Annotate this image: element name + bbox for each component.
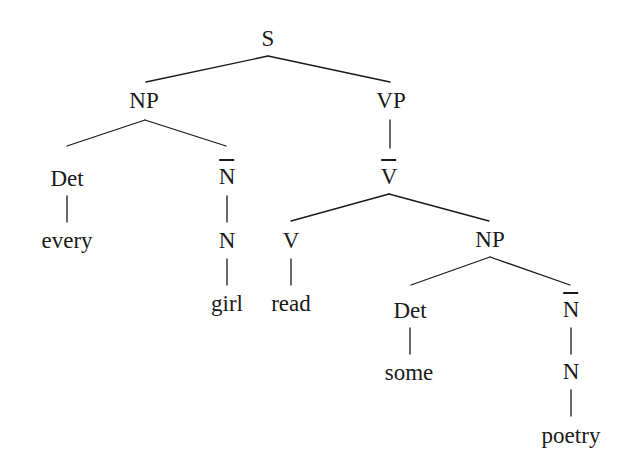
tree-node-v: V [283, 229, 300, 252]
tree-node-n1: N [219, 229, 236, 252]
tree-node-label: girl [211, 291, 243, 316]
tree-node-poetry: poetry [542, 424, 601, 447]
tree-edge [145, 120, 226, 146]
tree-node-np2: NP [475, 228, 504, 251]
tree-node-vp: VP [376, 89, 405, 112]
tree-edge-layer [0, 0, 626, 472]
tree-node-nbar1: N [219, 164, 236, 188]
tree-node-label: N [219, 228, 236, 253]
tree-edge [389, 194, 489, 221]
tree-node-label: some [385, 360, 434, 385]
tree-node-label: N [219, 164, 236, 189]
tree-node-some: some [385, 361, 434, 384]
tree-node-nbar2: N [563, 297, 580, 321]
tree-edge [146, 56, 268, 82]
tree-node-label: V [381, 164, 398, 189]
overbar-icon [564, 292, 579, 294]
tree-node-label: N [563, 297, 580, 322]
tree-node-n2: N [563, 360, 580, 383]
tree-node-label: read [271, 291, 311, 316]
tree-node-label: every [41, 228, 92, 253]
tree-node-girl: girl [211, 292, 243, 315]
tree-node-label: S [262, 26, 275, 51]
tree-node-label: NP [475, 227, 504, 252]
tree-edge [411, 257, 490, 285]
tree-node-read: read [271, 292, 311, 315]
tree-node-every: every [41, 229, 92, 252]
overbar-icon [382, 159, 397, 161]
tree-edge [291, 194, 389, 221]
bar-level-label: N [563, 297, 580, 321]
tree-node-det2: Det [393, 299, 426, 322]
tree-node-s: S [262, 27, 275, 50]
overbar-icon [220, 159, 235, 161]
tree-node-det1: Det [50, 167, 83, 190]
tree-edge [67, 120, 145, 146]
tree-node-vbar: V [381, 164, 398, 188]
tree-node-label: V [283, 228, 300, 253]
tree-edge [490, 257, 570, 285]
tree-node-label: NP [129, 88, 158, 113]
tree-edge [268, 56, 390, 82]
bar-level-label: N [219, 164, 236, 188]
tree-node-np1: NP [129, 89, 158, 112]
tree-node-label: Det [50, 166, 83, 191]
tree-node-label: poetry [542, 423, 601, 448]
bar-level-label: V [381, 164, 398, 188]
tree-node-label: N [563, 359, 580, 384]
syntax-tree-figure: SNPVPDetNVeveryNVNPgirlreadDetNsomeNpoet… [0, 0, 626, 472]
tree-node-label: VP [376, 88, 405, 113]
tree-node-label: Det [393, 298, 426, 323]
